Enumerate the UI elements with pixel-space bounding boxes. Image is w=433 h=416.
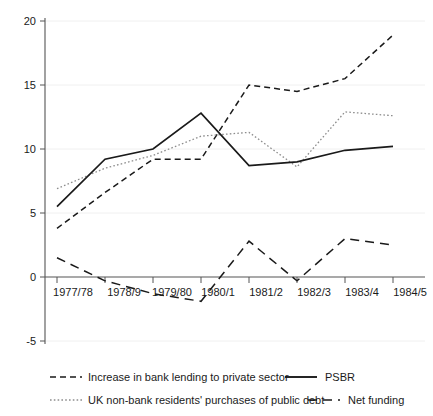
x-tick-label-1983-4: 1983/4 <box>345 286 379 298</box>
y-tick-label-5: 5 <box>30 207 36 219</box>
y-tick-label-minus5: -5 <box>26 335 36 347</box>
legend-label-psbr: PSBR <box>325 371 355 383</box>
y-tick-label-0: 0 <box>30 271 36 283</box>
x-tick-label-1978-9: 1978/9 <box>107 286 141 298</box>
y-tick-label-10: 10 <box>24 143 36 155</box>
line-chart: 20 15 10 5 0 -5 1977/78 1978/9 1979/80 1… <box>0 0 433 416</box>
x-tick-label-1981-2: 1981/2 <box>249 286 283 298</box>
y-tick-label-20: 20 <box>24 15 36 27</box>
legend-label-net-funding: Net funding <box>348 394 404 406</box>
series-psbr <box>57 113 393 206</box>
legend-label-nonbank: UK non-bank residents' purchases of publ… <box>88 394 324 406</box>
legend: Increase in bank lending to private sect… <box>50 371 404 406</box>
x-tick-label-1984-5: 1984/5 <box>393 286 427 298</box>
legend-label-bank-lending: Increase in bank lending to private sect… <box>88 371 289 383</box>
y-axis: 20 15 10 5 0 -5 <box>24 15 45 347</box>
x-tick-label-1982-3: 1982/3 <box>297 286 331 298</box>
series-group <box>57 35 393 301</box>
series-increase-in-bank-lending-to-private-sector <box>57 35 393 228</box>
x-tick-label-1980-1: 1980/1 <box>201 286 235 298</box>
chart-container: 20 15 10 5 0 -5 1977/78 1978/9 1979/80 1… <box>0 0 433 416</box>
y-tick-label-15: 15 <box>24 79 36 91</box>
x-tick-label-1977-78: 1977/78 <box>53 286 93 298</box>
